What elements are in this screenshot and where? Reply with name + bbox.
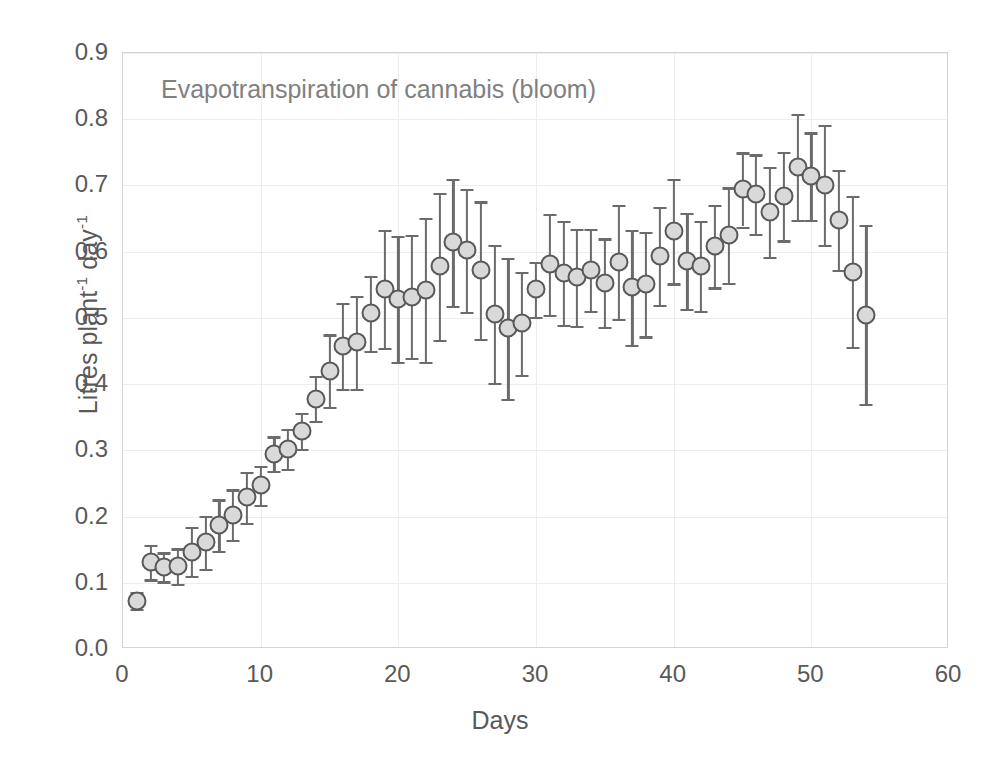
data-point-marker (816, 175, 835, 194)
error-bar-cap-lower (557, 325, 570, 327)
y-axis-title-sup2: -1 (73, 215, 90, 229)
error-bar-cap-upper (598, 238, 611, 240)
error-bar-cap-lower (172, 584, 185, 586)
error-bar-cap-upper (860, 225, 873, 227)
error-bar-cap-upper (543, 214, 556, 216)
error-bar-cap-upper (199, 516, 212, 518)
error-bar-cap-lower (543, 315, 556, 317)
error-bar-cap-upper (474, 201, 487, 203)
x-axis-tick-label: 30 (505, 660, 565, 688)
data-point-marker (471, 261, 490, 280)
error-bar-cap-lower (722, 283, 735, 285)
error-bar-cap-lower (419, 362, 432, 364)
data-point-marker (320, 361, 339, 380)
data-point-marker (251, 476, 270, 495)
y-axis-tick-label: 0.9 (48, 38, 108, 66)
x-axis-tick-label: 10 (230, 660, 290, 688)
error-bar-cap-lower (364, 351, 377, 353)
error-bar-cap-upper (653, 207, 666, 209)
data-point-marker (747, 185, 766, 204)
error-bar-cap-lower (708, 287, 721, 289)
error-bar-cap-upper (695, 221, 708, 223)
error-bar-cap-lower (144, 579, 157, 581)
data-point-marker (127, 591, 146, 610)
error-bar-cap-lower (640, 336, 653, 338)
plot-area: Evapotranspiration of cannabis (bloom) (122, 52, 948, 648)
data-point-marker (196, 533, 215, 552)
error-bar-cap-upper (337, 303, 350, 305)
error-bar-cap-upper (364, 276, 377, 278)
error-bar-cap-lower (213, 551, 226, 553)
x-axis-tick-label: 0 (92, 660, 152, 688)
data-point-marker (664, 222, 683, 241)
error-bar-cap-lower (254, 505, 267, 507)
error-bar-cap-lower (474, 339, 487, 341)
error-bar-cap-upper (791, 114, 804, 116)
error-bar-cap-lower (309, 421, 322, 423)
error-bar-cap-upper (612, 205, 625, 207)
error-bar-cap-lower (736, 227, 749, 229)
error-bar-cap-lower (158, 581, 171, 583)
error-bar-cap-lower (846, 347, 859, 349)
x-axis-title: Days (0, 706, 1000, 735)
y-axis-title-sup1: -1 (73, 277, 90, 291)
error-bar-cap-lower (805, 220, 818, 222)
error-bar-cap-lower (282, 469, 295, 471)
error-bar-cap-upper (351, 296, 364, 298)
error-bar-cap-lower (695, 311, 708, 313)
error-bar-cap-lower (791, 220, 804, 222)
data-point-marker (692, 257, 711, 276)
error-bar-cap-upper (846, 196, 859, 198)
y-axis-tick-label: 0.0 (48, 634, 108, 662)
data-point-marker (416, 281, 435, 300)
error-bar-cap-lower (571, 326, 584, 328)
data-point-marker (348, 333, 367, 352)
error-bar-cap-upper (268, 436, 281, 438)
data-point-marker (761, 202, 780, 221)
error-bar-cap-upper (585, 229, 598, 231)
error-bar-cap-lower (777, 240, 790, 242)
error-bar-cap-upper (640, 232, 653, 234)
x-axis-tick-label: 40 (643, 660, 703, 688)
error-bar-cap-lower (378, 348, 391, 350)
error-bar-cap-lower (530, 317, 543, 319)
data-point-marker (527, 280, 546, 299)
data-point-marker (609, 252, 628, 271)
error-bar-cap-lower (612, 319, 625, 321)
error-bar-cap-upper (557, 221, 570, 223)
x-axis-tick-label: 60 (918, 660, 978, 688)
data-point-marker (458, 241, 477, 260)
data-point-marker (857, 305, 876, 324)
error-bar-cap-upper (295, 413, 308, 415)
error-bar-cap-upper (805, 132, 818, 134)
error-bar-cap-upper (502, 258, 515, 260)
data-point-marker (292, 422, 311, 441)
error-bar-cap-lower (860, 404, 873, 406)
error-bar-cap-upper (185, 527, 198, 529)
data-point-marker (595, 273, 614, 292)
error-bar-cap-lower (626, 345, 639, 347)
error-bar-cap-upper (832, 170, 845, 172)
error-bar-cap-lower (764, 257, 777, 259)
error-bar-cap-lower (199, 569, 212, 571)
error-bar-cap-lower (461, 312, 474, 314)
error-bar-cap-upper (516, 272, 529, 274)
error-bar-cap-upper (764, 167, 777, 169)
error-bar-cap-lower (295, 449, 308, 451)
error-bar-cap-upper (392, 236, 405, 238)
data-point-marker (637, 275, 656, 294)
data-series-evapotranspiration (123, 53, 947, 647)
error-bar-cap-upper (309, 376, 322, 378)
error-bar-cap-upper (777, 152, 790, 154)
error-bar-cap-upper (158, 552, 171, 554)
error-bar-cap-lower (667, 283, 680, 285)
error-bar-cap-lower (268, 471, 281, 473)
error-bar-cap-lower (502, 399, 515, 401)
error-bar-cap-lower (351, 389, 364, 391)
error-bar-cap-upper (419, 218, 432, 220)
error-bar-cap-lower (653, 305, 666, 307)
error-bar-cap-upper (323, 334, 336, 336)
error-bar-cap-upper (750, 154, 763, 156)
error-bar-cap-upper (447, 179, 460, 181)
data-point-marker (829, 210, 848, 229)
